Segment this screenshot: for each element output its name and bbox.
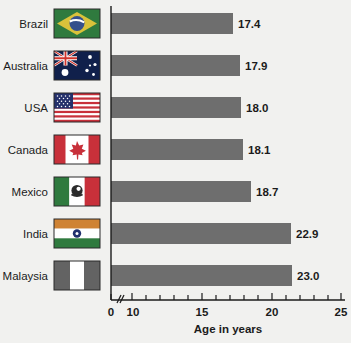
flag-usa bbox=[54, 93, 100, 122]
x-tick-label-1: 10 bbox=[127, 306, 140, 318]
bar-5 bbox=[111, 223, 291, 244]
category-label-6: Malaysia bbox=[3, 270, 49, 282]
x-tick-label-2: 15 bbox=[196, 306, 209, 318]
value-label-4: 18.7 bbox=[256, 186, 278, 198]
x-tick-label-0: 0 bbox=[108, 306, 114, 318]
flag-malaysia bbox=[54, 261, 100, 290]
value-label-6: 23.0 bbox=[297, 270, 319, 282]
flag-india bbox=[54, 219, 100, 248]
x-tick-label-3: 20 bbox=[266, 306, 279, 318]
flag-brazil bbox=[54, 9, 100, 38]
x-axis-title: Age in years bbox=[194, 323, 262, 335]
category-label-3: Canada bbox=[8, 144, 49, 156]
chart-background bbox=[0, 0, 351, 343]
bar-0 bbox=[111, 13, 233, 34]
flag-mexico bbox=[54, 177, 100, 206]
category-label-5: India bbox=[23, 228, 49, 240]
x-tick-label-4: 25 bbox=[335, 306, 348, 318]
value-label-0: 17.4 bbox=[238, 18, 261, 30]
bar-6 bbox=[111, 265, 292, 286]
flag-canada bbox=[54, 135, 100, 164]
chart-row: USA 18.0 bbox=[24, 93, 268, 122]
category-label-0: Brazil bbox=[19, 18, 48, 30]
category-label-4: Mexico bbox=[12, 186, 48, 198]
chart-row: Brazil 17.4 bbox=[19, 9, 261, 38]
value-label-3: 18.1 bbox=[248, 144, 271, 156]
bar-3 bbox=[111, 139, 243, 160]
value-label-1: 17.9 bbox=[245, 60, 267, 72]
chart-row: India 22.9 bbox=[23, 219, 318, 248]
category-label-1: Australia bbox=[3, 60, 48, 72]
category-label-2: USA bbox=[24, 102, 48, 114]
bar-4 bbox=[111, 181, 251, 202]
flag-australia bbox=[54, 51, 100, 80]
value-label-5: 22.9 bbox=[296, 228, 318, 240]
value-label-2: 18.0 bbox=[246, 102, 268, 114]
bar-2 bbox=[111, 97, 241, 118]
bar-1 bbox=[111, 55, 240, 76]
bar-chart: Brazil 17.4 Australia bbox=[0, 0, 351, 343]
